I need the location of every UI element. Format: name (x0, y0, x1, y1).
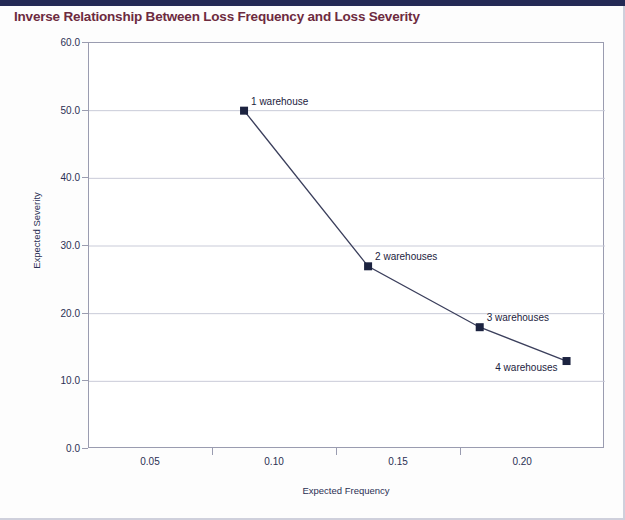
data-point-marker[interactable] (364, 262, 372, 270)
chart-figure: Inverse Relationship Between Loss Freque… (0, 0, 625, 520)
plot-svg (89, 43, 605, 449)
y-tick-label: 10.0 (40, 375, 80, 386)
data-point-marker[interactable] (563, 357, 571, 365)
x-tick-label: 0.20 (492, 456, 552, 467)
x-tick-label: 0.10 (244, 456, 304, 467)
gridlines (89, 43, 605, 381)
y-tick-label: 0.0 (40, 443, 80, 454)
y-tick-label: 40.0 (40, 172, 80, 183)
data-point-label: 3 warehouses (487, 312, 549, 323)
x-tick-mark (212, 448, 213, 455)
plot-area (88, 42, 604, 448)
top-rule-decoration (0, 0, 625, 6)
y-axis-label: Expected Severity (31, 171, 42, 291)
x-axis-label: Expected Frequency (88, 485, 604, 496)
y-tick-label: 30.0 (40, 240, 80, 251)
y-tick-label: 50.0 (40, 104, 80, 115)
y-tick-label: 60.0 (40, 37, 80, 48)
data-point-label: 4 warehouses (476, 362, 558, 373)
y-tick-mark (82, 448, 88, 449)
x-tick-mark (336, 448, 337, 455)
page-title: Inverse Relationship Between Loss Freque… (14, 9, 420, 24)
series-line (244, 111, 567, 361)
y-tick-label: 20.0 (40, 307, 80, 318)
x-tick-label: 0.05 (120, 456, 180, 467)
data-point-label: 1 warehouse (251, 96, 308, 107)
x-tick-label: 0.15 (368, 456, 428, 467)
data-point-marker[interactable] (476, 323, 484, 331)
data-series (240, 107, 571, 365)
data-point-label: 2 warehouses (375, 251, 437, 262)
data-point-marker[interactable] (240, 107, 248, 115)
x-tick-mark (460, 448, 461, 455)
